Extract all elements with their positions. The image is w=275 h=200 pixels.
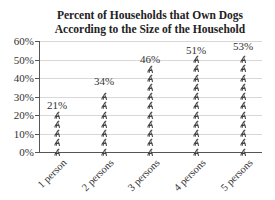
chart-title-line-1: Percent of Households that Own Dogs xyxy=(0,8,275,22)
y-tick-label: 60% xyxy=(0,35,34,47)
bar-4-persons xyxy=(191,58,201,152)
chart-title-line-2: According to the Size of the Household xyxy=(0,22,275,36)
x-tick-label: 1 person xyxy=(36,157,69,190)
data-label: 53% xyxy=(223,40,263,52)
y-tick-label: 50% xyxy=(0,54,34,66)
bar-5-persons xyxy=(238,54,248,152)
bar-2-persons xyxy=(99,89,109,152)
y-tick-label: 10% xyxy=(0,128,34,140)
y-tick-label: 40% xyxy=(0,72,34,84)
x-tick-label: 2 persons xyxy=(80,157,116,193)
chart-title: Percent of Households that Own Dogs Acco… xyxy=(0,8,275,36)
data-label: 46% xyxy=(130,53,170,65)
x-tick-label: 3 persons xyxy=(126,157,162,193)
y-tick-label: 30% xyxy=(0,91,34,103)
y-tick-label: 20% xyxy=(0,109,34,121)
data-label: 21% xyxy=(37,99,77,111)
dog-icon xyxy=(99,87,109,97)
data-label: 34% xyxy=(84,75,124,87)
x-tick-label: 4 persons xyxy=(172,157,208,193)
y-tick-label: 0% xyxy=(0,146,34,158)
bar-1-person xyxy=(52,113,62,152)
data-label: 51% xyxy=(176,44,216,56)
x-tick-label: 5 persons xyxy=(219,157,255,193)
y-axis xyxy=(39,41,40,153)
bar-3-persons xyxy=(145,67,155,152)
